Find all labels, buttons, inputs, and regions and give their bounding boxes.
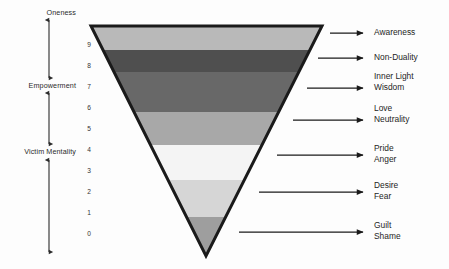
scale-number-5: 5 — [84, 126, 94, 133]
scale-number-2: 2 — [84, 189, 94, 196]
stage-label-guilt-line2: Shame — [374, 231, 401, 242]
scale-number-9: 9 — [84, 42, 94, 49]
group-label-empowerment: Empowerment — [29, 81, 76, 90]
stage-label-non-duality-line1: Non-Duality — [374, 52, 418, 62]
stage-label-inner-light-line1: Inner Light — [374, 71, 414, 81]
scale-number-7: 7 — [84, 84, 94, 91]
stage-label-pride-line1: Pride — [374, 143, 394, 153]
stage-label-love-line2: Neutrality — [374, 114, 409, 125]
stage-label-inner-light: Inner Light Wisdom — [374, 71, 414, 94]
stage-label-inner-light-line2: Wisdom — [374, 82, 414, 93]
scale-number-3: 3 — [84, 168, 94, 175]
stage-label-pride: Pride Anger — [374, 143, 396, 166]
scale-number-1: 1 — [84, 210, 94, 217]
scale-number-4: 4 — [84, 147, 94, 154]
stage-label-desire-line1: Desire — [374, 180, 398, 190]
stage-label-awareness: Awareness — [374, 27, 415, 38]
scale-number-6: 6 — [84, 105, 94, 112]
stage-label-pride-line2: Anger — [374, 154, 396, 165]
stage-label-guilt: Guilt Shame — [374, 220, 401, 243]
group-label-oneness: Oneness — [47, 8, 76, 17]
scale-number-8: 8 — [84, 63, 94, 70]
stage-label-guilt-line1: Guilt — [374, 220, 391, 230]
scale-number-0: 0 — [84, 231, 94, 238]
stage-label-desire: Desire Fear — [374, 180, 398, 203]
group-label-victim-mentality: Victim Mentality — [24, 147, 76, 156]
stage-label-desire-line2: Fear — [374, 191, 398, 202]
stage-label-love-line1: Love — [374, 103, 392, 113]
diagram-canvas: Oneness Empowerment Victim Mentality 9 8… — [0, 0, 449, 269]
stage-label-non-duality: Non-Duality — [374, 52, 418, 63]
stage-label-love: Love Neutrality — [374, 103, 409, 126]
stage-label-awareness-line1: Awareness — [374, 27, 415, 37]
